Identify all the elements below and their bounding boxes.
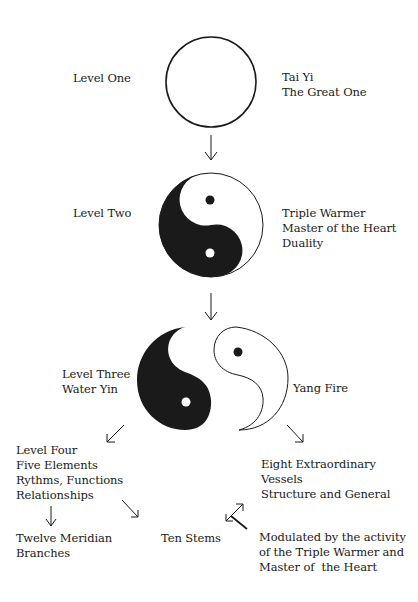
modulated-line: Modulated by the activity: [259, 530, 406, 545]
eight-extraordinary-line: Vessels: [261, 472, 390, 487]
level-four-line: Level Four: [16, 443, 123, 458]
level-four-line: Relationships: [16, 488, 123, 503]
level-three-label: Level Three Water Yin: [62, 367, 130, 397]
modulated-block: Modulated by the activity of the Triple …: [259, 530, 406, 575]
yang-fish-icon: [214, 327, 288, 430]
twelve-meridian-line: Twelve Meridian: [16, 531, 112, 546]
description-line: Tai Yi: [282, 70, 367, 85]
ten-stems-label: Ten Stems: [161, 531, 221, 546]
arrow-down-left-icon: [107, 425, 124, 442]
arrow-down-icon: [205, 293, 217, 320]
eight-extraordinary-block: Eight Extraordinary Vessels Structure an…: [261, 457, 390, 502]
description-line: Master of the Heart: [282, 221, 396, 236]
level-four-line: Rythms, Functions: [16, 473, 123, 488]
level-two-label: Level Two: [73, 206, 131, 221]
level-four-line: Five Elements: [16, 458, 123, 473]
arrow-down-icon: [205, 135, 217, 160]
tai-yi-circle-icon: [166, 37, 256, 127]
level-one-description: Tai Yi The Great One: [282, 70, 367, 100]
level-four-block: Level Four Five Elements Rythms, Functio…: [16, 443, 123, 503]
eight-extraordinary-line: Structure and General: [261, 487, 390, 502]
modulated-line: of the Triple Warmer and: [259, 545, 406, 560]
arrow-down-icon: [46, 506, 56, 526]
yin-yang-icon: [149, 169, 263, 287]
twelve-meridian-line: Branches: [16, 546, 112, 561]
arrow-down-right-icon: [122, 500, 138, 517]
description-line: Duality: [282, 236, 396, 251]
modulated-line: Master of the Heart: [259, 560, 406, 575]
arrow-bidirectional-icon: [226, 504, 247, 529]
arrow-down-right-icon: [287, 425, 303, 442]
yang-fire-label: Yang Fire: [293, 381, 348, 396]
level-one-label: Level One: [73, 71, 131, 86]
description-line: The Great One: [282, 85, 367, 100]
twelve-meridian-block: Twelve Meridian Branches: [16, 531, 112, 561]
eight-extraordinary-line: Eight Extraordinary: [261, 457, 390, 472]
description-line: Triple Warmer: [282, 206, 396, 221]
level-two-description: Triple Warmer Master of the Heart Dualit…: [282, 206, 396, 251]
yin-fish-icon: [137, 327, 211, 430]
